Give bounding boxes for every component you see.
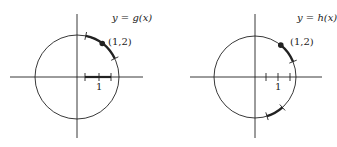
tick-label-1-g: 1 — [96, 81, 102, 92]
function-label-h: y = h(x) — [296, 12, 337, 23]
function-label-g: y = g(x) — [111, 12, 152, 23]
point-label-h: (1,2) — [290, 36, 314, 47]
point-label-g: (1,2) — [108, 36, 132, 47]
tick-label-1-h: 1 — [275, 81, 281, 92]
label-layer: y = g(x) (1,2) 1 y = h(x) (1,2) 1 — [0, 0, 337, 147]
